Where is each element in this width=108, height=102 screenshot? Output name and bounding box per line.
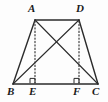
vertex-label-D: D — [76, 3, 84, 14]
segment-AB — [13, 20, 35, 84]
vertex-label-E: E — [29, 86, 36, 97]
vertex-label-A: A — [28, 3, 35, 14]
vertex-label-B: B — [7, 86, 14, 97]
right-angle-at-E-icon — [30, 78, 35, 83]
geometry-figure: A D B E F C — [0, 0, 108, 102]
vertex-label-C: C — [92, 86, 99, 97]
segment-BD — [13, 20, 79, 84]
vertex-label-F: F — [73, 86, 80, 97]
right-angle-at-F-icon — [74, 78, 79, 83]
